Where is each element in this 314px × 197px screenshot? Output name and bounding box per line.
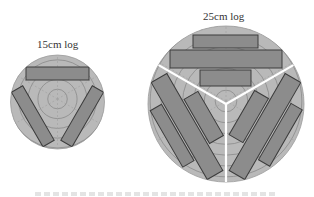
board	[193, 35, 258, 48]
board-group	[26, 67, 89, 80]
small-log	[0, 40, 116, 158]
board	[170, 50, 282, 68]
cropped-caption	[35, 192, 275, 196]
board	[200, 70, 251, 86]
sawing-pattern-diagram	[0, 0, 313, 196]
board	[26, 67, 89, 80]
large-log	[129, 4, 314, 197]
